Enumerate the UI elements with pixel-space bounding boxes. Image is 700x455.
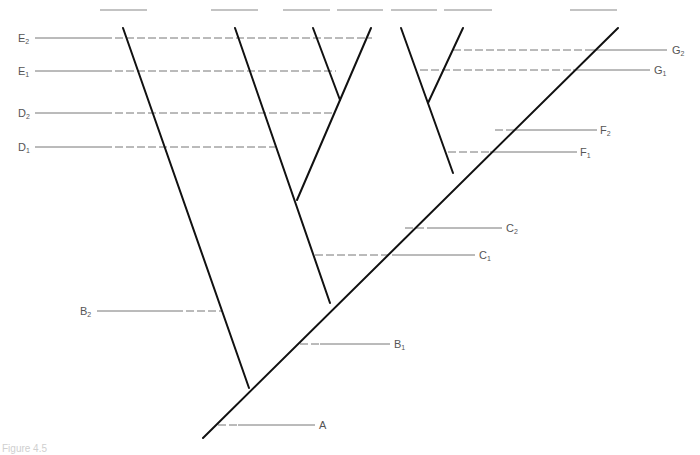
guide-solid-lines	[35, 38, 667, 425]
branches	[123, 28, 618, 438]
label-B2: B2	[80, 305, 91, 321]
label-C2: C2	[506, 222, 518, 238]
main-trunk	[203, 28, 618, 438]
label-D2: D2	[18, 107, 30, 123]
branch-tip-1	[123, 28, 249, 388]
guide-dashed-lines	[115, 38, 590, 425]
branch-tip-4	[297, 28, 371, 200]
label-E1: E1	[18, 65, 29, 81]
branch-tip-5	[401, 28, 453, 173]
label-D1: D1	[18, 141, 30, 157]
branch-tip-3	[313, 28, 340, 100]
label-F1: F1	[580, 146, 591, 162]
label-F2: F2	[600, 124, 611, 140]
label-G1: G1	[654, 64, 666, 80]
branch-tip-2	[235, 28, 330, 303]
label-A: A	[319, 419, 326, 435]
cladogram	[0, 0, 700, 455]
branch-tip-6	[428, 28, 463, 103]
label-C1: C1	[479, 249, 491, 265]
figure-caption: Figure 4.5	[2, 443, 47, 454]
label-B1: B1	[394, 338, 405, 354]
label-E2: E2	[18, 32, 29, 48]
label-G2: G2	[672, 44, 684, 60]
